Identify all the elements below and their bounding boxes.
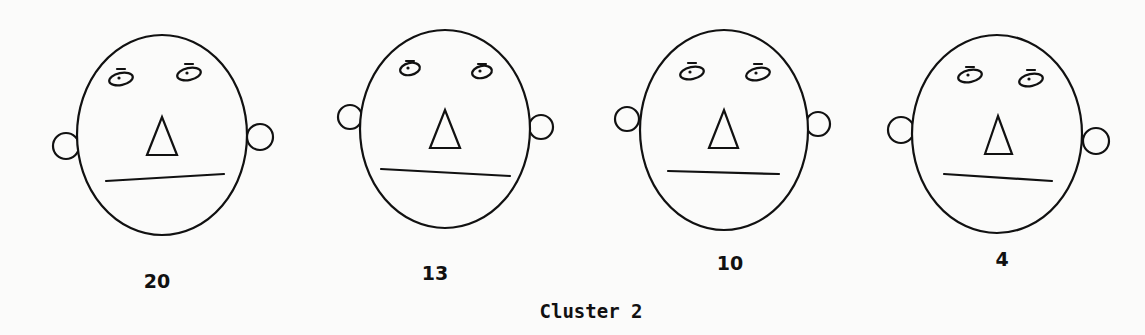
- face-label-1: 20: [144, 270, 170, 292]
- head-outline: [360, 30, 530, 228]
- cluster-caption: Cluster 2: [540, 300, 643, 322]
- left-pupil: [688, 70, 691, 73]
- face-3: [615, 30, 830, 230]
- right-pupil: [754, 71, 757, 74]
- right-ear: [806, 112, 830, 136]
- face-4: [888, 35, 1109, 233]
- right-ear: [247, 124, 273, 150]
- face-2: [338, 30, 553, 228]
- left-ear: [615, 107, 639, 131]
- right-pupil: [1027, 77, 1030, 80]
- face-label-2: 13: [422, 262, 448, 284]
- chernoff-faces-figure: 20 13 10 4 Cluster 2: [0, 0, 1145, 335]
- left-pupil: [966, 73, 969, 76]
- face-label-3: 10: [717, 252, 743, 274]
- right-ear: [529, 115, 553, 139]
- head-outline: [640, 30, 808, 230]
- faces-drawing: [0, 0, 1145, 335]
- right-pupil: [478, 69, 481, 72]
- head-outline: [912, 35, 1082, 233]
- right-ear: [1083, 128, 1109, 154]
- left-ear: [53, 133, 79, 159]
- left-pupil: [406, 66, 409, 69]
- right-pupil: [185, 71, 188, 74]
- left-ear: [338, 105, 362, 129]
- face-label-4: 4: [995, 248, 1008, 270]
- left-ear: [888, 117, 914, 143]
- left-pupil: [117, 76, 120, 79]
- head-outline: [77, 35, 247, 235]
- face-1: [53, 35, 273, 235]
